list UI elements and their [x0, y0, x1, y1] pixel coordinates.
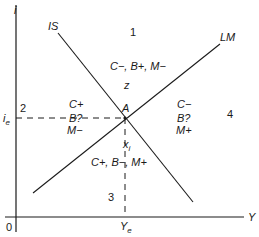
region-1-number: 1: [130, 26, 136, 38]
region-2-number: 2: [20, 102, 26, 114]
lm-label: LM: [220, 31, 236, 43]
region-1-effects: C−, B+, M−: [110, 60, 167, 72]
region-2-effect-c: C+: [69, 98, 84, 110]
origin-label: 0: [6, 221, 12, 233]
ie-label: ie: [3, 112, 10, 127]
equilibrium-point: [123, 116, 126, 119]
region-4-effect-c: C−: [177, 98, 192, 110]
z-label: z: [123, 79, 130, 91]
x-axis-label: Y: [248, 211, 256, 223]
region-2-effect-m: M−: [67, 124, 83, 136]
region-3-number: 3: [108, 191, 114, 203]
region-4-number: 4: [227, 108, 233, 120]
is-label: IS: [48, 20, 59, 32]
region-4-effect-m: M+: [176, 124, 192, 136]
region-4-effect-b: B?: [177, 112, 191, 124]
point-a-label: A: [121, 102, 129, 114]
islm-diagram: i Y 0 ie Ye IS LM A z xi 1 C−, B+, M− 2 …: [0, 0, 259, 237]
region-3-effects: C+, B−, M+: [91, 156, 148, 168]
xi-label: xi: [122, 138, 131, 153]
ye-label: Ye: [120, 220, 132, 235]
region-2-effect-b: B?: [69, 112, 83, 124]
